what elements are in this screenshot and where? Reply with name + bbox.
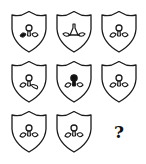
shield-r1c1 bbox=[10, 11, 48, 53]
missing-answer-question-mark: ? bbox=[100, 111, 138, 153]
shield-icon bbox=[55, 11, 93, 53]
shield-r2c1 bbox=[10, 61, 48, 103]
shield-icon bbox=[10, 61, 48, 103]
question-mark-label: ? bbox=[114, 122, 124, 142]
shield-icon bbox=[55, 111, 93, 153]
shield-r1c2 bbox=[55, 11, 93, 53]
shield-r3c2 bbox=[55, 111, 93, 153]
shield-icon bbox=[100, 61, 138, 103]
shield-icon bbox=[100, 11, 138, 53]
shield-r3c1 bbox=[10, 111, 48, 153]
shield-icon bbox=[10, 11, 48, 53]
shield-r1c3 bbox=[100, 11, 138, 53]
shield-r2c3 bbox=[100, 61, 138, 103]
shield-icon bbox=[55, 61, 93, 103]
shield-icon bbox=[10, 111, 48, 153]
shield-r2c2 bbox=[55, 61, 93, 103]
